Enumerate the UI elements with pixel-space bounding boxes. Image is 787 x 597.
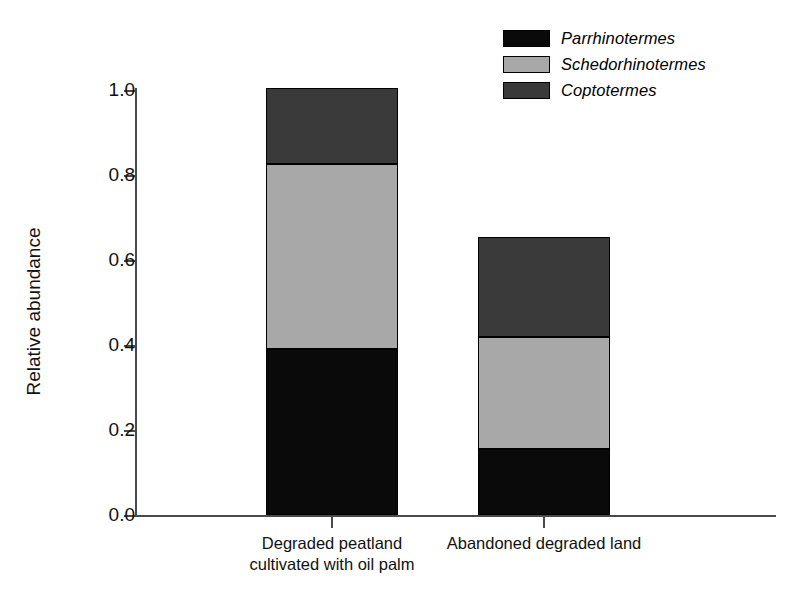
y-tick-label: 0.4: [81, 335, 135, 354]
x-tick-label-abandoned-degraded-land: Abandoned degraded land: [394, 533, 694, 554]
y-tick-label: 0.6: [81, 250, 135, 269]
plot-area: 0.00.20.40.60.81.0 Degraded peatland cul…: [0, 0, 787, 597]
y-tick-label: 0.8: [81, 165, 135, 184]
x-tick-mark: [331, 517, 333, 528]
bar-segment-schedorhinotermes: [266, 164, 398, 349]
x-tick-mark: [543, 517, 545, 528]
bar-segment-coptotermes: [266, 88, 398, 165]
x-axis-line: [135, 515, 776, 517]
y-axis-title: Relative abundance: [24, 162, 43, 462]
bar-segment-schedorhinotermes: [478, 337, 610, 450]
bar-degraded-peatland: [266, 90, 398, 515]
bar-abandoned-degraded-land: [478, 90, 610, 515]
y-tick-label: 0.2: [81, 420, 135, 439]
bar-segment-coptotermes: [478, 237, 610, 337]
y-axis-line: [135, 88, 137, 516]
bar-segment-parrhinotermes: [478, 449, 610, 515]
y-tick-label: 0.0: [81, 505, 135, 524]
chart-figure: Parrhinotermes Schedorhinotermes Coptote…: [0, 0, 787, 597]
bar-segment-parrhinotermes: [266, 349, 398, 515]
y-tick-label: 1.0: [81, 80, 135, 99]
